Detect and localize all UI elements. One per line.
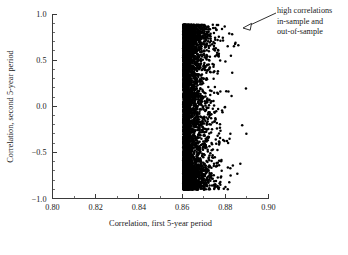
scatter-point bbox=[206, 148, 209, 151]
scatter-point bbox=[212, 108, 215, 111]
scatter-point bbox=[224, 186, 227, 189]
scatter-point bbox=[218, 35, 221, 38]
scatter-point bbox=[203, 128, 206, 131]
scatter-point bbox=[216, 72, 219, 75]
scatter-point bbox=[186, 123, 189, 126]
scatter-point bbox=[196, 80, 199, 83]
scatter-point bbox=[231, 72, 234, 75]
scatter-point bbox=[217, 93, 220, 96]
scatter-point bbox=[191, 142, 194, 145]
scatter-point bbox=[209, 94, 212, 97]
scatter-point bbox=[202, 108, 205, 111]
scatter-point bbox=[199, 159, 202, 162]
scatter-point bbox=[203, 154, 206, 157]
scatter-point bbox=[194, 129, 197, 132]
scatter-point bbox=[184, 183, 187, 186]
x-axis-tick-labels: 0.800.820.840.860.880.90 bbox=[45, 203, 275, 212]
scatter-point bbox=[186, 68, 189, 71]
scatter-point bbox=[224, 106, 227, 109]
scatter-point bbox=[192, 120, 195, 123]
scatter-point bbox=[185, 177, 188, 180]
scatter-point bbox=[211, 63, 214, 66]
scatter-point bbox=[205, 28, 208, 31]
scatter-point bbox=[202, 156, 205, 159]
scatter-point bbox=[187, 77, 190, 80]
scatter-point bbox=[206, 185, 209, 188]
scatter-point bbox=[220, 175, 223, 178]
scatter-point bbox=[213, 162, 216, 165]
scatter-point bbox=[198, 181, 201, 184]
scatter-point bbox=[189, 88, 192, 91]
scatter-point bbox=[183, 147, 186, 150]
scatter-point bbox=[195, 45, 198, 48]
scatter-point bbox=[215, 28, 218, 31]
scatter-point bbox=[202, 37, 205, 40]
scatter-point bbox=[215, 142, 218, 145]
scatter-point bbox=[218, 143, 221, 146]
scatter-point bbox=[187, 188, 190, 191]
scatter-point bbox=[193, 111, 196, 114]
scatter-point bbox=[213, 91, 216, 94]
scatter-point bbox=[203, 134, 206, 137]
scatter-point bbox=[204, 95, 207, 98]
scatter-point bbox=[191, 111, 194, 114]
scatter-point bbox=[201, 80, 204, 83]
scatter-point bbox=[194, 136, 197, 139]
scatter-point bbox=[186, 66, 189, 69]
scatter-point bbox=[186, 165, 189, 168]
scatter-point bbox=[207, 45, 210, 48]
scatter-point bbox=[190, 100, 193, 103]
scatter-point bbox=[198, 124, 201, 127]
scatter-point bbox=[202, 149, 205, 152]
scatter-point bbox=[197, 118, 200, 121]
scatter-point bbox=[194, 74, 197, 77]
scatter-point bbox=[204, 120, 207, 123]
scatter-point bbox=[216, 127, 219, 130]
scatter-point bbox=[216, 39, 219, 42]
scatter-point bbox=[186, 97, 189, 100]
scatter-point bbox=[245, 87, 248, 90]
scatter-point bbox=[204, 65, 207, 68]
scatter-point bbox=[194, 158, 197, 161]
scatter-point bbox=[195, 52, 198, 55]
scatter-point bbox=[189, 74, 192, 77]
scatter-point bbox=[234, 43, 237, 46]
scatter-point bbox=[227, 90, 230, 93]
scatter-point bbox=[206, 122, 209, 125]
scatter-point bbox=[219, 137, 222, 140]
scatter-point bbox=[201, 120, 204, 123]
scatter-point bbox=[217, 49, 220, 52]
scatter-point bbox=[187, 72, 190, 75]
scatter-point bbox=[207, 86, 210, 89]
scatter-point bbox=[209, 71, 212, 74]
scatter-point bbox=[184, 106, 187, 109]
scatter-point bbox=[207, 26, 210, 29]
scatter-point bbox=[202, 67, 205, 70]
scatter-point bbox=[194, 106, 197, 109]
scatter-point bbox=[207, 106, 210, 109]
scatter-point bbox=[191, 181, 194, 184]
scatter-point bbox=[194, 175, 197, 178]
scatter-point bbox=[206, 161, 209, 164]
scatter-point bbox=[184, 50, 187, 53]
scatter-point bbox=[193, 165, 196, 168]
scatter-point bbox=[202, 178, 205, 181]
scatter-point bbox=[186, 54, 189, 57]
scatter-point bbox=[186, 180, 189, 183]
scatter-point bbox=[197, 170, 200, 173]
scatter-point bbox=[200, 38, 203, 41]
scatter-point bbox=[213, 32, 216, 35]
scatter-point bbox=[212, 78, 215, 81]
scatter-point bbox=[208, 145, 211, 148]
scatter-point bbox=[211, 121, 214, 124]
scatter-point bbox=[196, 64, 199, 67]
scatter-point bbox=[191, 40, 194, 43]
scatter-point bbox=[213, 180, 216, 183]
scatter-point bbox=[186, 102, 189, 105]
scatter-point bbox=[219, 59, 222, 62]
scatter-point bbox=[215, 162, 218, 165]
scatter-point bbox=[182, 102, 185, 105]
scatter-point bbox=[189, 82, 192, 85]
scatter-point bbox=[208, 98, 211, 101]
scatter-point bbox=[192, 134, 195, 137]
